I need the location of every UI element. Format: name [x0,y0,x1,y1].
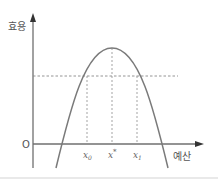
x-axis-label: 예산 [173,151,191,162]
x0-label: x0 [83,150,92,161]
y-axis-label: 효용 [8,21,26,32]
x1-label: x1 [133,150,142,161]
xstar-label: x* [108,148,117,160]
x-axis-arrow-icon [195,141,204,147]
origin-label: O [22,139,30,150]
utility-budget-diagram: 효용 O x0 x* x1 예산 [0,0,218,180]
y-axis-arrow-icon [30,13,36,22]
